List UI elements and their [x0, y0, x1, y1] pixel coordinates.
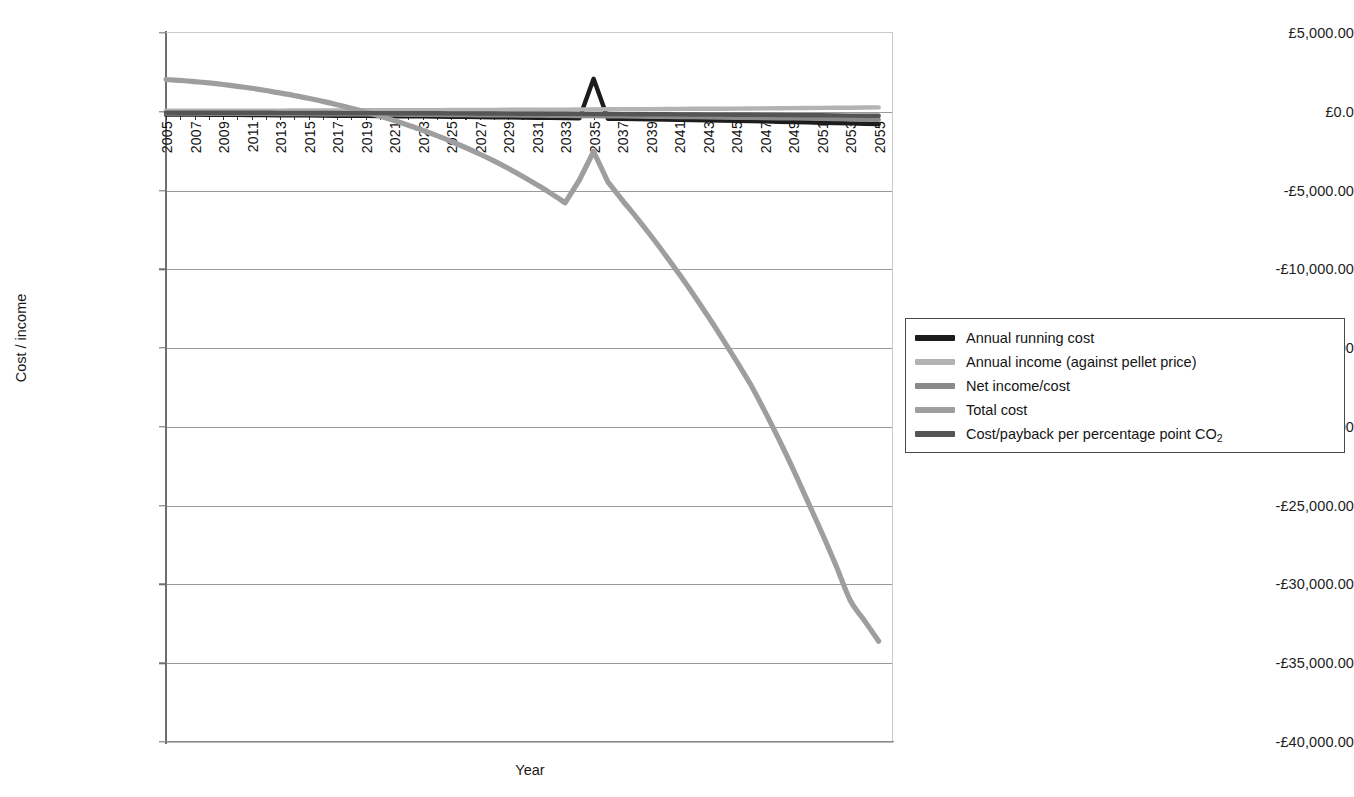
- x-tick-label: 2005: [159, 121, 175, 153]
- x-tick-label: 2011: [245, 121, 261, 152]
- x-tick-mark: [565, 114, 566, 120]
- x-tick-mark: [180, 114, 181, 120]
- x-tick-label: 2013: [273, 121, 289, 153]
- x-tick-label: 2037: [615, 121, 631, 153]
- legend-item[interactable]: Cost/payback per percentage point CO2: [915, 422, 1344, 446]
- x-tick-mark: [779, 114, 780, 120]
- x-tick-label: 2043: [701, 121, 717, 153]
- x-tick-mark: [166, 114, 167, 120]
- x-tick-label: 2023: [416, 121, 432, 153]
- y-tick-label: -£25,000.00: [1202, 498, 1354, 514]
- x-tick-label: 2055: [872, 121, 888, 153]
- x-tick-label: 2009: [216, 121, 232, 153]
- x-tick-mark: [765, 114, 766, 120]
- x-tick-mark: [836, 114, 837, 120]
- legend-item[interactable]: Annual income (against pellet price): [915, 350, 1344, 374]
- x-tick-mark: [608, 114, 609, 120]
- x-tick-mark: [751, 114, 752, 120]
- gridline: [166, 269, 893, 270]
- x-tick-label: 2049: [786, 121, 802, 153]
- x-tick-mark: [480, 114, 481, 120]
- co2-subscript: 2: [1217, 432, 1223, 444]
- x-tick-mark: [879, 114, 880, 120]
- x-tick-mark: [351, 114, 352, 120]
- legend-label: Net income/cost: [966, 379, 1070, 394]
- y-tick-label: £0.0: [1202, 104, 1354, 120]
- x-tick-mark: [209, 114, 210, 120]
- x-tick-mark: [309, 114, 310, 120]
- x-tick-label: 2017: [330, 121, 346, 153]
- x-tick-mark: [508, 114, 509, 120]
- x-tick-mark: [865, 114, 866, 120]
- x-tick-mark: [223, 114, 224, 120]
- x-tick-label: 2051: [815, 121, 831, 153]
- legend-item[interactable]: Total cost: [915, 398, 1344, 422]
- x-tick-mark: [822, 114, 823, 120]
- x-tick-mark: [793, 114, 794, 120]
- gridline: [166, 663, 893, 664]
- x-tick-label: 2019: [359, 121, 375, 153]
- x-tick-mark: [494, 114, 495, 120]
- x-tick-label: 2041: [672, 121, 688, 153]
- x-tick-mark: [266, 114, 267, 120]
- x-tick-mark: [850, 114, 851, 120]
- x-tick-label: 2025: [444, 121, 460, 153]
- gridline: [166, 112, 893, 113]
- x-tick-mark: [736, 114, 737, 120]
- y-tick-label: -£35,000.00: [1202, 655, 1354, 671]
- x-tick-mark: [423, 114, 424, 120]
- y-tick-label: -£30,000.00: [1202, 576, 1354, 592]
- legend-item[interactable]: Net income/cost: [915, 374, 1344, 398]
- legend-swatch: [915, 335, 955, 341]
- x-tick-mark: [465, 114, 466, 120]
- x-tick-mark: [522, 114, 523, 120]
- x-tick-mark: [537, 114, 538, 120]
- legend-swatch: [915, 383, 955, 389]
- x-tick-mark: [366, 114, 367, 120]
- x-tick-label: 2047: [758, 121, 774, 153]
- legend-swatch: [915, 407, 955, 413]
- x-tick-mark: [665, 114, 666, 120]
- x-tick-mark: [722, 114, 723, 120]
- gridline: [166, 427, 893, 428]
- x-tick-mark: [622, 114, 623, 120]
- x-tick-label: 2029: [501, 121, 517, 153]
- chart-root: £5,000.00£0.0-£5,000.00-£10,000.00-£15,0…: [0, 0, 1354, 797]
- x-tick-label: 2027: [473, 121, 489, 153]
- x-tick-mark: [252, 114, 253, 120]
- x-tick-mark: [579, 114, 580, 120]
- legend-label: Cost/payback per percentage point CO2: [966, 427, 1223, 442]
- series-line: [166, 107, 879, 110]
- x-tick-label: 2021: [387, 121, 403, 153]
- x-tick-mark: [451, 114, 452, 120]
- x-tick-mark: [294, 114, 295, 120]
- gridline: [166, 506, 893, 507]
- gridline: [166, 584, 893, 585]
- series-line: [166, 80, 879, 642]
- y-tick-label: -£5,000.00: [1202, 183, 1354, 199]
- x-tick-mark: [594, 114, 595, 120]
- x-tick-mark: [280, 114, 281, 120]
- legend-item[interactable]: Annual running cost: [915, 326, 1344, 350]
- x-tick-mark: [636, 114, 637, 120]
- x-tick-mark: [337, 114, 338, 120]
- x-tick-label: 2033: [558, 121, 574, 153]
- x-tick-mark: [394, 114, 395, 120]
- y-tick-label: £5,000.00: [1202, 25, 1354, 41]
- gridline: [166, 348, 893, 349]
- x-tick-mark: [437, 114, 438, 120]
- x-tick-label: 2015: [302, 121, 318, 153]
- legend-label: Annual running cost: [966, 331, 1094, 346]
- legend-label: Annual income (against pellet price): [966, 355, 1197, 370]
- plot-right-border: [892, 33, 893, 742]
- x-tick-mark: [195, 114, 196, 120]
- x-tick-mark: [679, 114, 680, 120]
- x-tick-label: 2007: [188, 121, 204, 153]
- x-axis-line: [165, 741, 894, 742]
- legend-swatch: [915, 431, 955, 437]
- x-tick-mark: [380, 114, 381, 120]
- x-tick-label: 2045: [729, 121, 745, 153]
- y-axis-title: Cost / income: [13, 278, 29, 398]
- x-tick-mark: [651, 114, 652, 120]
- x-tick-mark: [693, 114, 694, 120]
